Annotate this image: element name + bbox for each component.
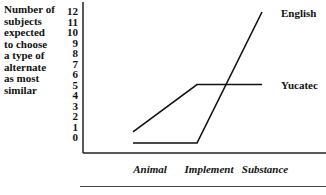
legend-yucatec: Yucatec	[281, 79, 318, 91]
category-label-substance: Substance	[242, 163, 288, 175]
bottom-rule	[80, 186, 326, 187]
series-line-english	[133, 12, 262, 143]
category-label-animal: Animal	[133, 163, 167, 175]
category-label-implement: Implement	[185, 163, 234, 175]
series-line-yucatec	[133, 85, 262, 132]
legend-english: English	[281, 7, 316, 19]
